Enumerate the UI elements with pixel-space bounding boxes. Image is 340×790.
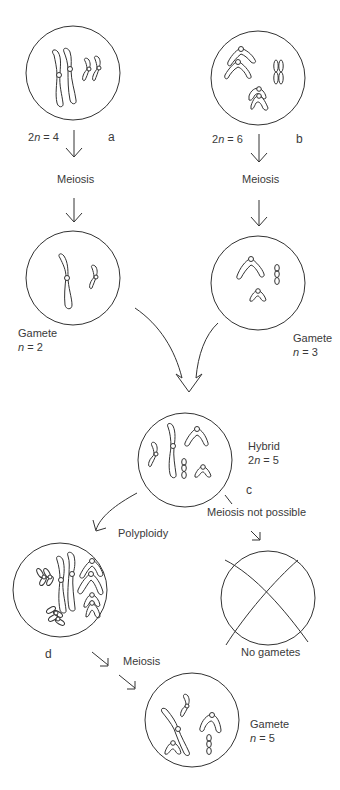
gamete-final-ploidy: n = 5 [250, 732, 275, 745]
gamete-final-cell [145, 673, 239, 767]
hybrid-ploidy: 2n = 5 [248, 454, 279, 467]
arrow-polyploidy-icon [93, 493, 137, 531]
gamete-a-title: Gamete [18, 327, 57, 340]
cross-line [226, 560, 298, 645]
chromosome-icon [275, 265, 280, 285]
gamete-final-title: Gamete [250, 718, 289, 731]
gamete-b-ploidy: n = 3 [293, 346, 318, 359]
gamete-a-ploidy: n = 2 [18, 341, 43, 354]
hybrid-title: Hybrid [248, 440, 280, 453]
chromosome-icon [274, 60, 283, 84]
chromosome-icon [161, 708, 189, 755]
cross-line [225, 560, 308, 642]
no-gametes-cell [221, 551, 315, 645]
meiosis-label-d: Meiosis [123, 655, 160, 668]
polyploid-cell [13, 543, 107, 637]
arrow-down-icon [251, 200, 267, 226]
no-gametes-label: No gametes [241, 646, 300, 659]
ploidy-label-a: 2n = 4 [28, 131, 59, 144]
chromosome-icon [53, 50, 64, 107]
diagram-canvas [0, 0, 340, 790]
meiosis-label-b: Meiosis [242, 173, 279, 186]
ploidy-label-b: 2n = 6 [212, 133, 243, 146]
species-b-cell [211, 31, 305, 125]
chromosome-icon [36, 568, 55, 587]
chromosome-icon [182, 459, 187, 479]
gamete-a-cell [26, 231, 120, 325]
gamete-b-title: Gamete [293, 332, 332, 345]
fusion-arrow-icon [135, 308, 218, 392]
chromosome-icon [168, 423, 177, 477]
label-d: d [45, 648, 52, 661]
chromosome-icon [64, 48, 77, 104]
label-c: c [246, 484, 252, 497]
polyploidy-label: Polyploidy [118, 527, 168, 540]
arrow-down-icon [251, 134, 267, 162]
label-a: a [108, 131, 115, 144]
chromosome-icon [68, 552, 76, 611]
gamete-b-cell [211, 236, 305, 330]
chromosome-icon [46, 606, 66, 627]
chromosome-icon [207, 735, 212, 755]
arrow-meiosis-d-icon [92, 652, 108, 666]
label-b: b [296, 133, 303, 146]
species-a-cell [26, 26, 120, 120]
chromosome-icon [59, 254, 72, 309]
arrow-down-icon [66, 130, 82, 157]
meiosis-label-a: Meiosis [57, 173, 94, 186]
chromosome-icon [57, 556, 67, 613]
arrow-meiosis-d2-icon [119, 675, 135, 689]
meiosis-not-possible-label: Meiosis not possible [207, 506, 306, 519]
arrow-down-icon [66, 198, 82, 222]
hybrid-cell [138, 413, 232, 507]
